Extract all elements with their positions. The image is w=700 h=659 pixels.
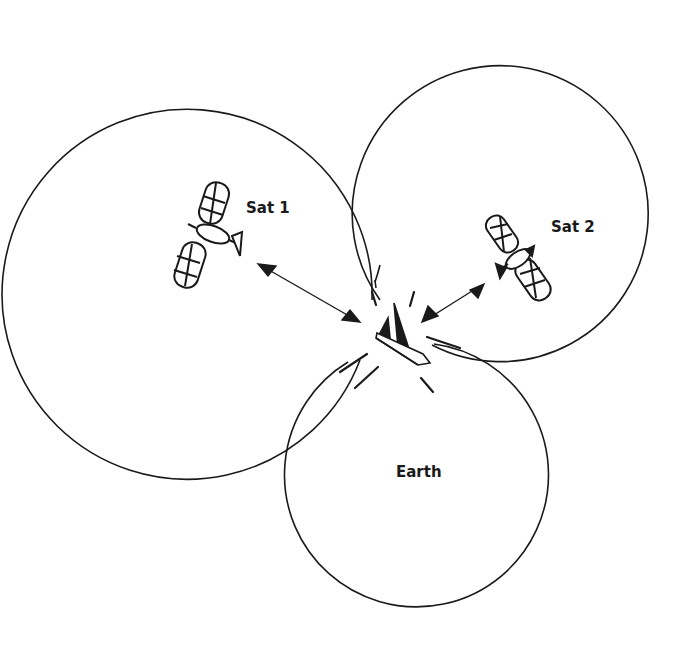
satellite-positioning-diagram: Sat 1 Sat 2 Earth	[0, 0, 700, 659]
sat2-label: Sat 2	[551, 218, 595, 236]
earth-label: Earth	[396, 463, 442, 481]
satellite-1-icon	[171, 179, 242, 290]
satellite-2-icon	[482, 212, 554, 304]
sat1-range-circle	[2, 109, 372, 479]
sat1-label: Sat 1	[246, 199, 290, 217]
diagram-canvas	[0, 0, 700, 659]
boat-icon	[376, 303, 430, 365]
